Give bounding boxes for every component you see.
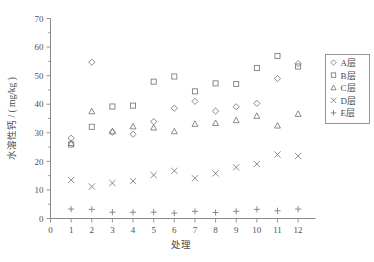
data-point xyxy=(171,168,177,174)
data-point xyxy=(151,79,156,84)
y-axis-tick-label: 20 xyxy=(35,157,45,167)
data-point xyxy=(89,108,95,114)
data-point xyxy=(192,175,198,181)
data-point xyxy=(254,161,260,167)
x-axis-tick-label: 4 xyxy=(131,225,136,235)
data-point xyxy=(131,103,136,108)
y-axis-tick-label: 60 xyxy=(35,42,45,52)
data-point xyxy=(109,209,115,215)
data-point xyxy=(130,209,136,215)
data-point xyxy=(171,105,177,111)
data-point xyxy=(151,209,157,215)
data-point xyxy=(130,131,136,137)
x-axis-title: 处理 xyxy=(171,239,191,250)
x-axis-tick-label: 10 xyxy=(252,225,262,235)
x-axis-tick-label: 5 xyxy=(151,225,156,235)
data-point xyxy=(233,208,239,214)
data-point xyxy=(171,128,177,134)
series-B层 xyxy=(69,53,301,147)
x-axis-tick-label: 7 xyxy=(193,225,198,235)
data-point xyxy=(295,111,301,117)
x-axis-tick-label: 9 xyxy=(234,225,239,235)
data-point xyxy=(213,120,219,126)
x-axis-tick-label: 8 xyxy=(213,225,218,235)
data-point xyxy=(275,123,281,129)
data-point xyxy=(89,124,94,129)
legend-item-label: C层 xyxy=(341,83,356,93)
data-point xyxy=(254,206,260,212)
data-point xyxy=(151,125,157,131)
data-point xyxy=(110,104,115,109)
series-A层 xyxy=(68,59,301,141)
data-point xyxy=(212,209,218,215)
x-axis-tick-label: 6 xyxy=(172,225,177,235)
data-point xyxy=(234,81,239,86)
series-C层 xyxy=(68,108,301,145)
data-point xyxy=(89,183,95,189)
x-axis-tick-label: 12 xyxy=(294,225,303,235)
data-point xyxy=(233,104,239,110)
x-axis-tick-label: 1 xyxy=(69,225,74,235)
x-axis-tick-label: 0 xyxy=(48,225,53,235)
data-points-layer xyxy=(68,53,301,216)
data-point xyxy=(212,170,218,176)
data-point xyxy=(68,140,74,146)
y-axis-tick-label: 0 xyxy=(39,214,44,224)
y-axis-tick-label: 70 xyxy=(35,14,45,24)
data-point xyxy=(171,210,177,216)
data-point xyxy=(254,65,259,70)
y-axis: 010203040506070 xyxy=(35,14,51,224)
series-D层 xyxy=(68,151,301,189)
data-point xyxy=(109,180,115,186)
chart-legend: A层B层C层D层E层 xyxy=(326,55,370,124)
data-point xyxy=(254,100,260,106)
legend-item-label: E层 xyxy=(341,108,356,118)
legend-item-label: A层 xyxy=(341,58,357,68)
data-point xyxy=(274,151,280,157)
data-point xyxy=(130,178,136,184)
data-point xyxy=(151,172,157,178)
data-point xyxy=(295,153,301,159)
data-point xyxy=(68,206,74,212)
data-point xyxy=(295,206,301,212)
y-axis-title: 水溶性钙 / ( mg/kg ) xyxy=(6,77,18,160)
data-point xyxy=(274,208,280,214)
data-point xyxy=(274,75,280,81)
data-point xyxy=(192,89,197,94)
data-point xyxy=(254,113,260,119)
data-point xyxy=(212,108,218,114)
x-axis-tick-label: 3 xyxy=(110,225,115,235)
data-point xyxy=(130,123,136,129)
legend-item-label: D层 xyxy=(341,96,357,106)
data-point xyxy=(89,206,95,212)
series-E层 xyxy=(68,206,301,216)
x-axis-tick-label: 11 xyxy=(273,225,282,235)
x-axis: 0123456789101112 xyxy=(48,219,315,235)
y-axis-tick-label: 30 xyxy=(35,128,45,138)
y-axis-tick-label: 50 xyxy=(35,71,45,81)
data-point xyxy=(172,74,177,79)
y-axis-tick-label: 10 xyxy=(35,185,45,195)
data-point xyxy=(275,53,280,58)
data-point xyxy=(192,121,198,127)
data-point xyxy=(192,208,198,214)
scatter-chart-figure: 010203040506070 0123456789101112 处理水溶性钙 … xyxy=(0,0,374,262)
chart-canvas: 010203040506070 0123456789101112 处理水溶性钙 … xyxy=(0,0,374,262)
legend-item-label: B层 xyxy=(341,71,356,81)
y-axis-tick-label: 40 xyxy=(35,99,45,109)
data-point xyxy=(233,117,239,123)
x-axis-tick-label: 2 xyxy=(90,225,95,235)
data-point xyxy=(213,81,218,86)
data-point xyxy=(233,164,239,170)
data-point xyxy=(89,59,95,65)
data-point xyxy=(192,98,198,104)
data-point xyxy=(68,177,74,183)
